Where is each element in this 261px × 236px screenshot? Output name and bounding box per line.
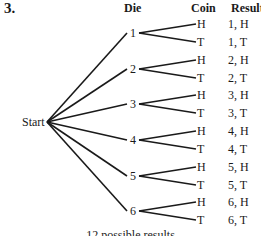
coin-node: H [197,196,206,208]
result-label: 6, H [228,196,249,208]
coin-node: H [197,125,206,137]
coin-node: H [197,161,206,173]
result-label: 3, H [228,89,249,101]
die-node: 2 [130,63,136,75]
result-label: 4, H [228,125,249,137]
coin-node: H [197,89,206,101]
die-node: 6 [130,205,136,217]
result-label: 2, H [228,54,249,66]
result-label: 5, T [228,179,247,191]
coin-node: T [197,179,204,191]
coin-node: H [197,18,206,30]
die-node: 4 [130,134,136,146]
result-label: 6, T [228,214,247,226]
die-node: 3 [130,98,136,110]
coin-node: T [197,107,204,119]
result-label: 2, T [228,72,247,84]
die-node: 1 [130,27,136,39]
result-label: 3, T [228,107,247,119]
coin-node: H [197,54,206,66]
result-label: 5, H [228,161,249,173]
coin-node: T [197,36,204,48]
coin-node: T [197,143,204,155]
start-node: Start [22,116,45,128]
die-node: 5 [130,170,136,182]
result-label: 1, H [228,18,249,30]
result-label: 1, T [228,36,247,48]
coin-node: T [197,72,204,84]
caption: 12 possible results [0,228,261,236]
result-label: 4, T [228,143,247,155]
coin-node: T [197,214,204,226]
